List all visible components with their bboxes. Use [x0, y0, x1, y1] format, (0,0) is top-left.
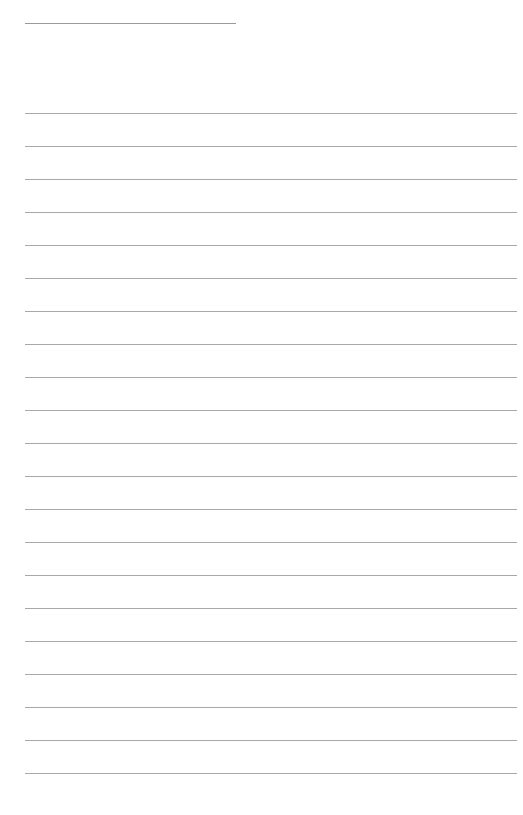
ruled-line: [25, 179, 517, 180]
ruled-line: [25, 212, 517, 213]
ruled-line: [25, 707, 517, 708]
ruled-line: [25, 113, 517, 114]
title-line: [25, 23, 236, 24]
ruled-line: [25, 641, 517, 642]
ruled-line: [25, 674, 517, 675]
ruled-line: [25, 410, 517, 411]
ruled-line: [25, 476, 517, 477]
ruled-line: [25, 344, 517, 345]
ruled-line: [25, 245, 517, 246]
ruled-line: [25, 575, 517, 576]
ruled-line: [25, 278, 517, 279]
ruled-line: [25, 608, 517, 609]
ruled-line: [25, 311, 517, 312]
ruled-line: [25, 542, 517, 543]
lined-page: [0, 0, 523, 815]
ruled-line: [25, 443, 517, 444]
ruled-line: [25, 377, 517, 378]
ruled-line: [25, 146, 517, 147]
ruled-line: [25, 509, 517, 510]
ruled-line: [25, 773, 517, 774]
ruled-line: [25, 740, 517, 741]
